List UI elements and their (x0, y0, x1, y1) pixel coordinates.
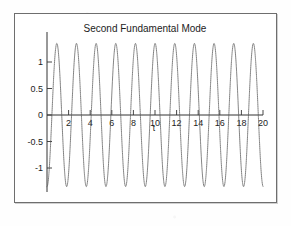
x-tick-label: 8 (131, 118, 136, 128)
y-tick-label: 0 (38, 110, 43, 120)
y-tick-group: 10.50-0.5-1 (27, 57, 52, 173)
figure-frame: Second Fundamental Mode 2468101214161820… (14, 13, 277, 203)
chart-title: Second Fundamental Mode (84, 23, 207, 34)
x-tick-label: 18 (236, 118, 246, 128)
y-tick-label: -0.5 (27, 137, 43, 147)
y-tick-label: -1 (35, 163, 43, 173)
figure-root: Second Fundamental Mode 2468101214161820… (0, 0, 291, 226)
y-tick-label: 1 (38, 57, 43, 67)
y-tick-label: 0.5 (30, 84, 43, 94)
x-tick-group: 2468101214161820 (66, 110, 268, 128)
x-tick-label: 20 (258, 118, 268, 128)
x-tick-label: 2 (66, 118, 71, 128)
x-tick-label: 16 (215, 118, 225, 128)
plot-canvas: Second Fundamental Mode 2468101214161820… (15, 14, 275, 201)
x-tick-label: 14 (193, 118, 203, 128)
x-tick-label: 4 (88, 118, 93, 128)
